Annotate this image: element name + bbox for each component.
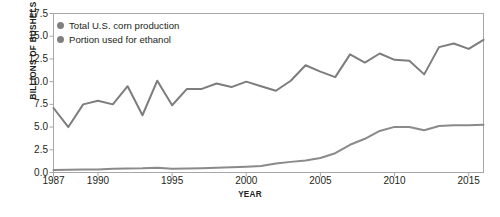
- y-tick-label: 10.0: [14, 77, 48, 87]
- x-tick-label: 2000: [224, 176, 268, 186]
- y-tick-label: 5.0: [14, 122, 48, 132]
- legend-label: Portion used for ethanol: [69, 34, 171, 45]
- x-tick-label: 1995: [150, 176, 194, 186]
- legend-item-ethanol: Portion used for ethanol: [57, 33, 179, 46]
- y-tick-label: 17.5: [14, 9, 48, 19]
- y-tick-label: 7.5: [14, 99, 48, 109]
- chart-legend: Total U.S. corn production Portion used …: [57, 19, 179, 47]
- y-tick-label: 2.5: [14, 145, 48, 155]
- x-tick-label: 1990: [76, 176, 120, 186]
- data-series: [54, 40, 484, 170]
- x-tick-label: 2015: [447, 176, 491, 186]
- x-tick-label: 2005: [298, 176, 342, 186]
- line-portion-used-for-ethanol: [54, 125, 484, 170]
- legend-item-total-corn: Total U.S. corn production: [57, 19, 179, 32]
- chart-figure: BILLIONS OF BUSHELS YEAR 0.02.55.07.510.…: [0, 0, 500, 217]
- x-tick-label: 1987: [32, 176, 76, 186]
- x-tick-label: 2010: [373, 176, 417, 186]
- legend-marker-icon: [57, 36, 64, 43]
- y-tick-label: 15.0: [14, 31, 48, 41]
- y-tick-label: 12.5: [14, 54, 48, 64]
- legend-marker-icon: [57, 22, 64, 29]
- line-total-corn-production: [54, 40, 484, 127]
- legend-label: Total U.S. corn production: [69, 20, 179, 31]
- x-axis-title: YEAR: [0, 190, 500, 199]
- y-axis-title: BILLIONS OF BUSHELS: [29, 0, 38, 131]
